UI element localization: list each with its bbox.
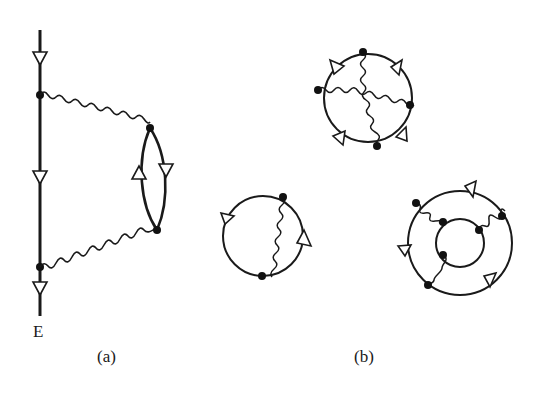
panel-a: E (a) [33,30,173,366]
fermion-loop [223,196,303,276]
crossed-photon-diagram [314,48,414,150]
photon-line [40,92,150,123]
vertex-dot [475,226,483,234]
vertex-dot [153,226,161,234]
fermion-loop-outer [408,191,512,295]
arrow-down-icon [33,282,47,295]
panel-label-b: (b) [354,347,374,366]
photon-line [40,227,157,268]
arrow-down-icon [159,164,173,177]
arrow-down-icon [33,171,47,184]
vertex-dot [424,281,432,289]
panel-b: (b) [221,48,512,366]
vertex-dot [279,193,287,201]
endpoint-label: E [33,322,43,341]
photon-line [361,52,381,148]
vertex-dot [359,48,367,56]
vertex-dot [439,218,447,226]
vertex-dot [498,212,506,220]
vertex-dot [373,142,381,150]
vertex-dot [406,101,414,109]
arrow-icon [221,213,234,224]
photon-line [271,197,285,277]
arrow-icon [484,273,496,287]
vertex-dot [439,251,447,259]
vertex-dot [146,124,154,132]
arrow-down-icon [33,52,47,65]
panel-label-a: (a) [97,347,116,366]
self-energy-diagram [221,193,311,280]
ring-diagram [398,181,512,295]
arrow-up-icon [132,166,146,179]
fermion-loop-inner [436,219,484,267]
feynman-diagram-figure: E (a) [0,0,537,393]
arrow-icon [297,230,311,246]
vertex-dot [314,86,322,94]
vertex-dot [412,199,420,207]
arrow-icon [465,181,476,197]
arrow-icon [333,131,345,145]
arrow-icon [396,127,407,141]
vertex-dot [258,272,266,280]
